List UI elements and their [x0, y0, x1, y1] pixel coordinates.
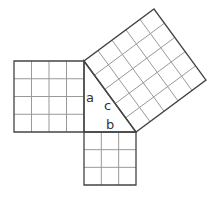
square-b	[84, 132, 136, 185]
label-b: b	[106, 117, 114, 132]
square-a	[14, 61, 84, 132]
label-c: c	[104, 98, 111, 113]
square-c	[84, 9, 206, 132]
pythagoras-diagram: a c b	[0, 0, 218, 201]
label-a: a	[86, 90, 94, 105]
